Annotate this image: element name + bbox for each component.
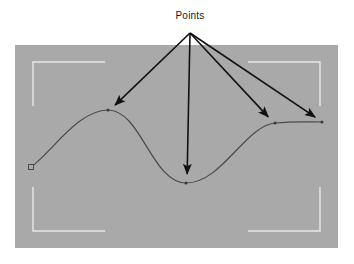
figure-root: Points (0, 0, 354, 264)
viewport-panel (15, 45, 338, 248)
trough-point[interactable] (185, 182, 188, 185)
start-point-handle[interactable] (29, 165, 34, 170)
diagram-canvas: Points (0, 0, 354, 264)
first-peak-point[interactable] (107, 109, 110, 112)
end-point[interactable] (321, 121, 324, 124)
points-label: Points (176, 10, 205, 21)
second-peak-point[interactable] (274, 122, 277, 125)
